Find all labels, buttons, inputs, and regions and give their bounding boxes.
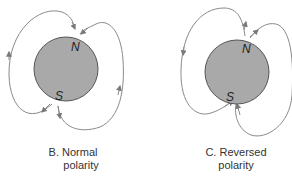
north-pole-label: N — [71, 40, 80, 54]
arrow-out-north-1 — [244, 22, 246, 30]
panel-normal-polarity: N S B. Normal polarity — [0, 0, 146, 176]
south-pole-label: S — [226, 90, 234, 104]
caption-line1: B. Normal — [38, 146, 108, 159]
planet-earth — [34, 37, 98, 101]
caption-reversed: C. Reversed polarity — [196, 146, 276, 172]
caption-line2: polarity — [196, 159, 276, 172]
caption-line2: polarity — [38, 159, 108, 172]
arrow-out-south-2 — [58, 106, 60, 118]
arrow-into-south-2 — [237, 104, 240, 115]
arrow-right-up — [118, 86, 120, 95]
arrow-into-north-2 — [81, 28, 88, 34]
south-pole-label: S — [55, 89, 63, 103]
arrow-out-north-2 — [250, 30, 258, 37]
caption-line1: C. Reversed — [196, 146, 276, 159]
panel-reversed-polarity: N S C. Reversed polarity — [146, 0, 292, 176]
north-pole-label: N — [242, 42, 251, 56]
arrow-out-south-1 — [42, 104, 50, 112]
planet-earth — [205, 40, 269, 104]
caption-normal: B. Normal polarity — [38, 146, 108, 172]
